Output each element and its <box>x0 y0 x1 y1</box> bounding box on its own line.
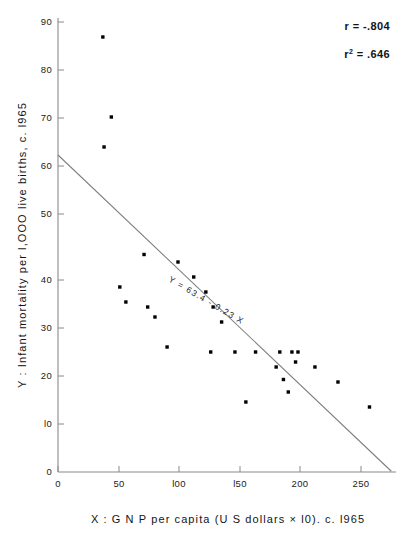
data-point <box>313 365 316 368</box>
regression-equation-label: Y = 63.4 - 0.23 X <box>167 274 246 326</box>
data-point <box>102 145 105 148</box>
scatter-plot-figure: 90 80 70 60 50 40 30 20 l0 0 0 50 l00 l5… <box>0 0 406 542</box>
data-point <box>233 350 236 353</box>
y-tick-label-10: l0 <box>44 418 52 429</box>
data-point <box>220 320 223 323</box>
correlation-r2-label: r2 = .646 <box>344 48 390 60</box>
data-point <box>142 253 145 256</box>
data-point <box>192 275 195 278</box>
y-tick-label-40: 40 <box>41 274 52 285</box>
data-point <box>124 300 127 303</box>
data-point <box>282 378 285 381</box>
y-tick-label-90: 90 <box>41 16 52 27</box>
x-axis-title: X : G N P per capita (U S dollars × l0).… <box>91 513 365 525</box>
x-axis-ticks <box>58 466 361 472</box>
data-point <box>101 35 104 38</box>
data-point <box>336 380 339 383</box>
x-tick-label-50: 50 <box>113 478 124 489</box>
y-tick-label-70: 70 <box>41 112 52 123</box>
chart-canvas: 90 80 70 60 50 40 30 20 l0 0 0 50 l00 l5… <box>0 0 406 542</box>
y-tick-label-30: 30 <box>41 322 52 333</box>
x-tick-label-150: l50 <box>233 478 247 489</box>
data-point <box>368 405 371 408</box>
data-point <box>290 350 293 353</box>
x-tick-label-200: 200 <box>292 478 309 489</box>
data-point <box>244 400 247 403</box>
y-tick-label-0: 0 <box>46 466 52 477</box>
data-point <box>274 365 277 368</box>
data-point <box>176 260 179 263</box>
r2-rest: = .646 <box>353 48 390 60</box>
data-point <box>153 315 156 318</box>
data-point <box>254 350 257 353</box>
x-tick-label-0: 0 <box>55 478 61 489</box>
data-points <box>101 35 371 408</box>
x-tick-label-100: l00 <box>172 478 186 489</box>
data-point <box>278 350 281 353</box>
y-tick-label-80: 80 <box>41 64 52 75</box>
data-point <box>118 285 121 288</box>
data-point <box>209 350 212 353</box>
data-point <box>110 115 113 118</box>
data-point <box>287 390 290 393</box>
correlation-r-label: r = -.804 <box>345 20 391 32</box>
data-point <box>296 350 299 353</box>
data-point <box>146 305 149 308</box>
x-tick-label-250: 250 <box>353 478 370 489</box>
y-tick-label-60: 60 <box>41 160 52 171</box>
y-axis-ticks <box>58 22 64 424</box>
y-axis-title: Y : Infant mortality per l,OOO live birt… <box>16 102 28 388</box>
y-tick-label-20: 20 <box>41 370 52 381</box>
data-point <box>294 360 297 363</box>
data-point <box>165 345 168 348</box>
y-tick-label-50: 50 <box>41 208 52 219</box>
